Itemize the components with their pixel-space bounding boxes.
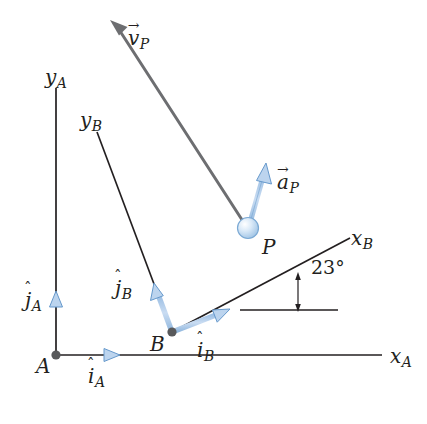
hat-accent-j-B: ˆ — [114, 269, 122, 284]
label-x-axis-frame-A: xA — [390, 346, 412, 369]
label-i-hat-A: ˆiA — [88, 366, 105, 389]
vector-accent-a-P: → — [277, 162, 289, 176]
label-point-B: B — [150, 334, 165, 354]
acceleration-P-vector — [249, 163, 272, 226]
label-j-hat-A: ˆjA — [25, 290, 42, 313]
label-j-hat-B: ˆjB — [115, 278, 132, 301]
label-angle-value: 23° — [311, 258, 345, 277]
label-i-hat-B: ˆiB — [197, 340, 214, 363]
label-acceleration-P: →aP — [277, 172, 299, 195]
hat-accent-i-B: ˆ — [196, 331, 204, 346]
j-hat-B-vector — [151, 283, 173, 332]
physics-diagram: yA xA yB xB ˆiA ˆjA ˆiB ˆjB →vP →aP A B — [0, 0, 427, 424]
label-y-axis-frame-A: yA — [45, 67, 67, 90]
particle-P-sphere — [238, 218, 259, 239]
label-velocity-P: →vP — [128, 28, 149, 51]
point-A-dot — [51, 350, 60, 359]
hat-accent-i-A: ˆ — [87, 357, 95, 372]
j-hat-A-vector — [50, 291, 63, 355]
vector-accent-v-P: → — [128, 18, 140, 32]
angle-measure-arrow — [295, 272, 301, 312]
point-B-dot — [167, 327, 176, 336]
hat-accent-j-A: ˆ — [24, 281, 32, 296]
label-y-axis-frame-B: yB — [80, 110, 102, 133]
label-point-A: A — [36, 356, 50, 376]
x-axis-frame-B-line — [172, 238, 350, 332]
label-x-axis-frame-B: xB — [351, 228, 373, 251]
label-point-P: P — [262, 237, 275, 257]
